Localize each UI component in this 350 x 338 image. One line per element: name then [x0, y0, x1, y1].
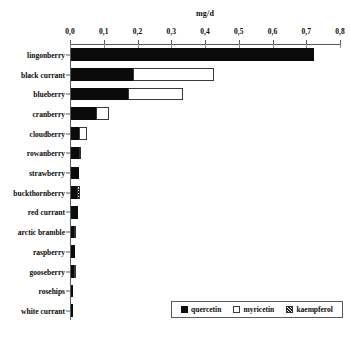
bar-row: cloudberry: [70, 124, 340, 144]
stacked-bar: [71, 127, 87, 140]
bar-row: black currant: [70, 65, 340, 85]
y-tick: [66, 173, 70, 174]
x-tick-label: 0,5: [234, 27, 243, 36]
bar-row: rosehips: [70, 281, 340, 301]
y-tick: [66, 251, 70, 252]
stacked-bar: [71, 265, 76, 278]
bar-segment-myricetin: [133, 68, 214, 81]
x-tick-label: 0,1: [99, 27, 108, 36]
category-label: red currant: [28, 208, 65, 217]
axis-title-text: mg/d: [196, 9, 214, 18]
legend-item-kaempferol: kaempferol: [286, 305, 333, 314]
stacked-bar: [71, 285, 73, 298]
bar-segment-myricetin: [128, 88, 184, 101]
bar-segment-quercetin: [71, 88, 128, 101]
legend-item-myricetin: myricetin: [233, 305, 274, 314]
x-tick-label: 0,2: [133, 27, 142, 36]
category-label: cranberry: [33, 109, 66, 118]
stacked-bar: [71, 245, 75, 258]
y-tick: [66, 291, 70, 292]
stacked-bar: [71, 167, 79, 180]
category-label: blueberry: [33, 90, 65, 99]
stacked-bar: [71, 88, 183, 101]
bar-segment-kaempferol: [77, 186, 80, 199]
bar-row: rowanberry: [70, 144, 340, 164]
berry-flavonol-intake-chart: mg/d 0,00,10,20,30,40,50,60,70,8 lingonb…: [0, 0, 350, 338]
y-tick: [66, 54, 70, 55]
bar-row: strawberry: [70, 163, 340, 183]
bar-segment-quercetin: [71, 127, 79, 140]
x-tick-label: 0,0: [65, 27, 74, 36]
chart-legend: quercetin myricetin kaempferol: [171, 301, 343, 318]
bar-row: lingonberry: [70, 45, 340, 65]
bar-segment-kaempferol: [74, 226, 76, 239]
bar-segment-quercetin: [71, 68, 133, 81]
x-tick-label: 0,8: [335, 27, 344, 36]
bar-segment-quercetin: [71, 147, 79, 160]
stacked-bar: [71, 48, 314, 61]
legend-label-myricetin: myricetin: [243, 305, 274, 314]
y-tick: [66, 133, 70, 134]
x-tick-inner: [340, 44, 341, 48]
category-label: black currant: [21, 70, 65, 79]
legend-swatch-kaempferol: [286, 306, 293, 313]
stacked-bar: [71, 206, 78, 219]
bar-segment-quercetin: [71, 304, 73, 317]
y-tick: [66, 212, 70, 213]
y-tick: [66, 310, 70, 311]
axis-title: mg/d: [0, 9, 350, 18]
y-tick: [66, 113, 70, 114]
y-tick: [66, 74, 70, 75]
legend-label-quercetin: quercetin: [191, 305, 221, 314]
stacked-bar: [71, 107, 109, 120]
x-tick-label: 0,7: [302, 27, 311, 36]
bar-segment-myricetin: [79, 127, 86, 140]
category-label: buckthornberry: [13, 188, 65, 197]
category-label: lingonberry: [27, 50, 65, 59]
y-tick: [66, 271, 70, 272]
bar-segment-quercetin: [71, 285, 73, 298]
category-label: white currant: [21, 306, 65, 315]
legend-item-quercetin: quercetin: [181, 305, 221, 314]
y-tick: [66, 192, 70, 193]
category-label: rosehips: [38, 287, 65, 296]
x-tick-label: 0,3: [167, 27, 176, 36]
bar-row: arctic bramble: [70, 222, 340, 242]
bar-row: blueberry: [70, 84, 340, 104]
stacked-bar: [71, 147, 81, 160]
bar-row: red currant: [70, 203, 340, 223]
x-tick-label: 0,6: [268, 27, 277, 36]
legend-label-kaempferol: kaempferol: [296, 305, 333, 314]
category-label: cloudberry: [30, 129, 65, 138]
category-label: raspberry: [33, 247, 65, 256]
bar-segment-quercetin: [71, 48, 314, 61]
bar-row: buckthornberry: [70, 183, 340, 203]
category-label: gooseberry: [30, 267, 65, 276]
bar-row: cranberry: [70, 104, 340, 124]
category-label: strawberry: [29, 169, 65, 178]
stacked-bar: [71, 304, 73, 317]
stacked-bar: [71, 68, 214, 81]
bar-row: raspberry: [70, 242, 340, 262]
bar-segment-kaempferol: [79, 147, 81, 160]
plot-area: 0,00,10,20,30,40,50,60,70,8 lingonberryb…: [70, 44, 340, 320]
bar-segment-quercetin: [71, 167, 79, 180]
stacked-bar: [71, 226, 76, 239]
bar-row: gooseberry: [70, 262, 340, 282]
x-tick-label: 0,4: [200, 27, 209, 36]
bar-segment-quercetin: [71, 206, 78, 219]
y-tick: [66, 153, 70, 154]
bar-segment-quercetin: [71, 245, 75, 258]
stacked-bar: [71, 186, 80, 199]
category-label: arctic bramble: [18, 228, 65, 237]
bar-segment-myricetin: [74, 265, 76, 278]
category-label: rowanberry: [27, 149, 65, 158]
legend-swatch-myricetin: [233, 306, 240, 313]
bar-segment-myricetin: [96, 107, 109, 120]
y-tick: [66, 94, 70, 95]
legend-swatch-quercetin: [181, 306, 188, 313]
bar-segment-quercetin: [71, 107, 96, 120]
y-tick: [66, 232, 70, 233]
